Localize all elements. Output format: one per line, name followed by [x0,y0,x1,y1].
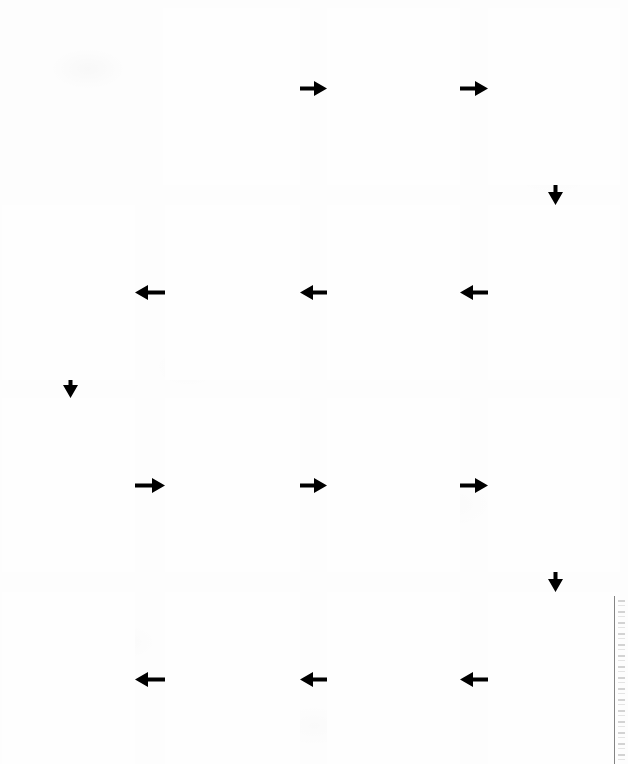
flowchart-box-r3c3[interactable] [327,398,460,572]
arrow-glyph [460,81,488,96]
flowchart-box-r3c2[interactable] [165,398,300,572]
flow-arrow-right-e1 [300,81,327,96]
flowchart-box-r2c1[interactable] [2,205,135,380]
flow-arrow-down-e3 [548,185,563,205]
arrow-glyph [460,478,488,493]
flowchart-box-r3c4[interactable] [488,398,620,572]
flowchart-box-r2c2[interactable] [165,205,300,380]
flow-arrow-right-e9 [300,478,327,493]
arrow-glyph [135,285,165,300]
flow-arrow-left-e5 [300,285,327,300]
flowchart-box-r3c1[interactable] [2,398,135,572]
flow-arrow-left-e4 [460,285,488,300]
arrow-glyph [548,572,563,592]
arrow-glyph [300,81,327,96]
arrow-glyph [135,478,165,493]
flow-arrow-down-e11 [548,572,563,592]
flow-arrow-left-e14 [135,672,165,687]
flow-arrow-left-e12 [460,672,488,687]
flowchart-box-r4c1[interactable] [2,592,135,764]
flowchart-box-r1c2[interactable] [163,8,300,185]
flowchart-box-r2c4[interactable] [488,205,620,380]
arrow-glyph [460,285,488,300]
flow-arrow-left-e6 [135,285,165,300]
arrow-glyph [548,185,563,205]
arrow-glyph [63,380,78,398]
flow-arrow-down-e7 [63,380,78,398]
worksheet-page [0,0,628,764]
arrow-glyph [460,672,488,687]
flowchart-box-r1c4[interactable] [488,8,620,185]
flowchart-box-r2c3[interactable] [327,205,460,380]
flowchart-box-r4c3[interactable] [327,592,460,764]
flowchart-box-r4c4[interactable] [488,592,620,764]
flow-arrow-right-e10 [460,478,488,493]
arrow-glyph [300,478,327,493]
flow-arrow-right-e2 [460,81,488,96]
flow-arrow-left-e13 [300,672,327,687]
arrow-glyph [300,285,327,300]
arrow-glyph [300,672,327,687]
arrow-glyph [135,672,165,687]
flow-arrow-right-e8 [135,478,165,493]
flowchart-box-r1c3[interactable] [327,8,460,185]
flowchart-box-r4c2[interactable] [165,592,300,764]
